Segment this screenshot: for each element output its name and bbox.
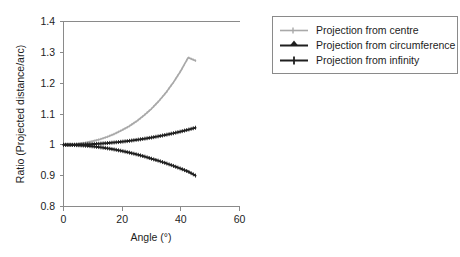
x-axis-title: Angle (°)	[131, 231, 172, 243]
x-tick-label-60: 60	[234, 213, 246, 225]
legend-label-circumference: Projection from circumference	[316, 39, 456, 51]
y-tick-label-1.1: 1.1	[40, 108, 55, 120]
x-tick-label-20: 20	[116, 213, 128, 225]
y-tick-label-1: 1	[49, 138, 55, 150]
legend-label-centre: Projection from centre	[316, 24, 419, 36]
y-tick-label-1.2: 1.2	[40, 77, 55, 89]
chart-svg: 1.4 1.3 1.2 1.1 1 0.9 0.8 0 20 40 60 Ang…	[0, 0, 460, 257]
legend: Projection from centre Projection from c…	[273, 17, 458, 74]
x-tick-label-0: 0	[61, 213, 67, 225]
y-tick-label-1.4: 1.4	[40, 15, 55, 27]
y-tick-label-0.9: 0.9	[40, 169, 55, 181]
y-axis-title: Ratio (Projected distance/arc)	[14, 45, 26, 183]
y-tick-label-0.8: 0.8	[40, 200, 55, 212]
legend-label-infinity: Projection from infinity	[316, 54, 420, 66]
chart-figure: 1.4 1.3 1.2 1.1 1 0.9 0.8 0 20 40 60 Ang…	[0, 0, 460, 257]
y-tick-label-1.3: 1.3	[40, 46, 55, 58]
x-tick-label-40: 40	[175, 213, 187, 225]
